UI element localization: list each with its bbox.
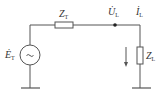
current-arrow-icon bbox=[124, 62, 128, 67]
circuit-diagram: ĖT ZT U̇L İL ZL bbox=[0, 0, 164, 96]
impedance-zl bbox=[137, 47, 143, 64]
node-dot bbox=[113, 23, 117, 27]
label-source: ĖT bbox=[4, 49, 15, 61]
label-ul: U̇L bbox=[108, 6, 119, 18]
ac-symbol-icon bbox=[27, 55, 34, 57]
label-zl: ZL bbox=[146, 50, 156, 62]
label-zt: ZT bbox=[59, 8, 69, 20]
label-il: İL bbox=[135, 6, 143, 18]
impedance-zt bbox=[55, 22, 73, 28]
